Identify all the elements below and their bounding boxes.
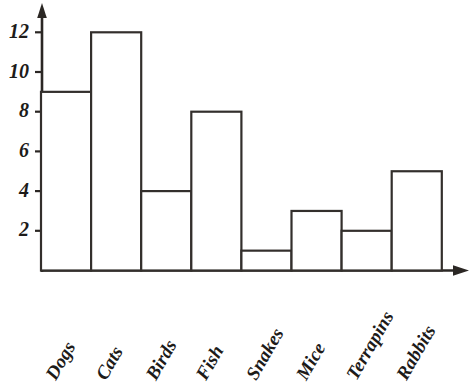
x-axis-label-birds: Birds [141,336,181,384]
bar-snakes [241,251,291,271]
x-axis-arrowhead [453,265,469,276]
x-axis-label-snakes: Snakes [242,324,288,383]
x-axis-label-fish: Fish [191,342,228,384]
x-axis-label-rabbits: Rabbits [391,321,439,384]
y-axis-tick-label: 6 [19,139,29,161]
y-axis-tick-label: 2 [18,218,29,240]
bar-fish [191,112,241,271]
chart-canvas: 24681012 DogsCatsBirdsFishSnakesMiceTerr… [0,0,471,387]
x-axis-category-labels: DogsCatsBirdsFishSnakesMiceTerrapinsRabb… [41,307,440,384]
x-axis-label-cats: Cats [91,342,127,383]
bar-series [41,32,442,270]
bar-dogs [41,92,91,271]
y-axis-tick-label: 4 [18,179,29,201]
x-axis-label-terrapins: Terrapins [342,307,398,383]
x-axis-label-dogs: Dogs [41,338,80,384]
y-axis-arrowhead [37,3,47,18]
y-axis-tick-label: 10 [9,60,29,82]
bar-mice [292,211,342,271]
bar-cats [91,32,141,270]
y-axis-tick-label: 12 [9,20,29,42]
bar-terrapins [342,231,392,271]
bar-rabbits [392,171,442,270]
x-axis-label-mice: Mice [291,338,329,384]
y-axis-tick-label: 8 [19,99,29,121]
bar-birds [141,191,191,270]
bar-chart: 24681012 DogsCatsBirdsFishSnakesMiceTerr… [0,0,471,387]
y-axis-tick-labels: 24681012 [9,20,29,241]
